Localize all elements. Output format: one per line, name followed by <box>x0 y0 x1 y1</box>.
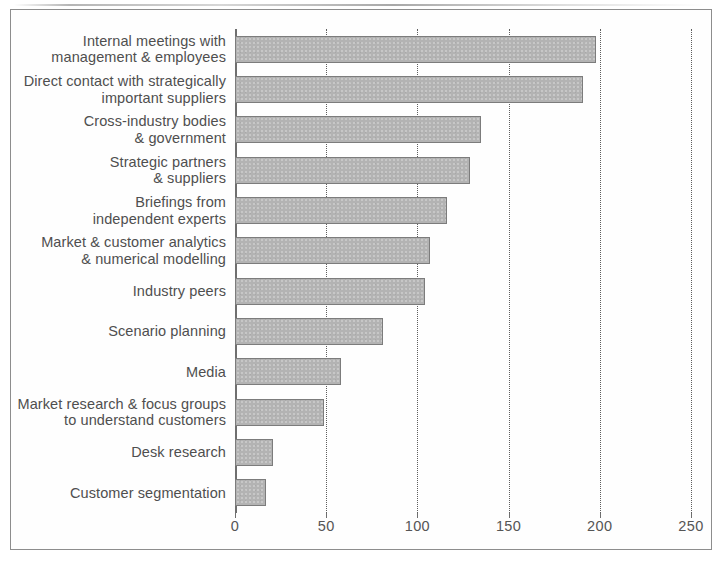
bar-row <box>235 439 691 466</box>
bar-row <box>235 358 691 385</box>
category-axis-labels: Internal meetings with management & empl… <box>11 29 235 513</box>
category-label: Industry peers <box>133 283 226 300</box>
bar-row <box>235 116 691 143</box>
bar-row <box>235 318 691 345</box>
category-label: Direct contact with strategically import… <box>24 73 226 106</box>
bar-row <box>235 278 691 305</box>
category-label: Briefings from independent experts <box>93 194 226 227</box>
bar <box>235 197 447 224</box>
bar <box>235 116 481 143</box>
bar-row <box>235 197 691 224</box>
bar <box>235 157 470 184</box>
bar <box>235 36 596 63</box>
bar-row <box>235 479 691 506</box>
tick-label-150: 150 <box>496 518 521 534</box>
tick-label-200: 200 <box>587 518 612 534</box>
tick-label-250: 250 <box>678 518 703 534</box>
bar-row <box>235 36 691 63</box>
category-label: Cross-industry bodies & government <box>84 113 226 146</box>
category-label: Market & customer analytics & numerical … <box>41 234 226 267</box>
category-label: Desk research <box>131 444 226 461</box>
category-label: Internal meetings with management & empl… <box>51 33 226 66</box>
category-label: Market research & focus groups to unders… <box>17 396 226 429</box>
category-label: Media <box>186 364 226 381</box>
chart-frame: Internal meetings with management & empl… <box>10 9 712 550</box>
tick-label-50: 50 <box>318 518 335 534</box>
category-label: Strategic partners & suppliers <box>110 154 226 187</box>
tick-label-0: 0 <box>231 518 239 534</box>
category-label: Customer segmentation <box>70 485 226 502</box>
bar-row <box>235 237 691 264</box>
bar <box>235 358 341 385</box>
bar <box>235 318 383 345</box>
gridline-250 <box>691 29 692 513</box>
bar <box>235 479 266 506</box>
bar <box>235 399 324 426</box>
bar-row <box>235 157 691 184</box>
tick-label-100: 100 <box>405 518 430 534</box>
bar <box>235 76 583 103</box>
bar <box>235 237 430 264</box>
bar-row <box>235 76 691 103</box>
category-label: Scenario planning <box>108 323 226 340</box>
plot-area: 050100150200250 <box>235 29 691 513</box>
bar <box>235 439 273 466</box>
scan-artifact-line <box>14 4 704 6</box>
bar-row <box>235 399 691 426</box>
bar <box>235 278 425 305</box>
